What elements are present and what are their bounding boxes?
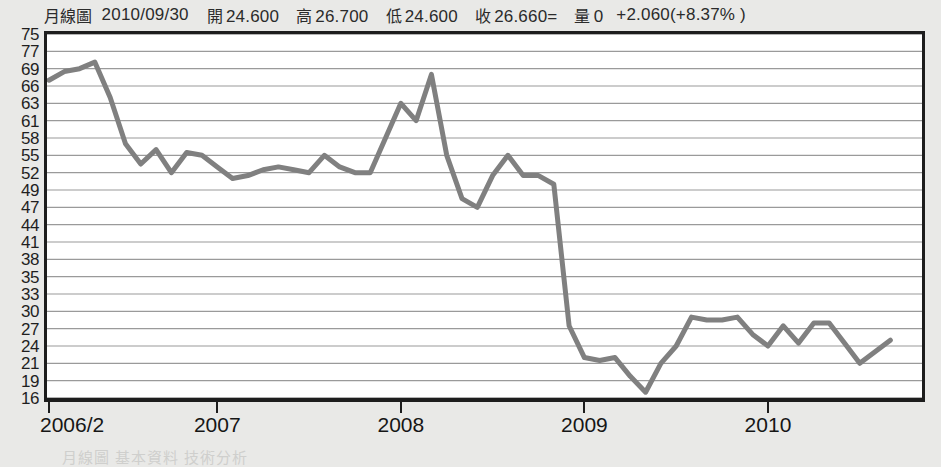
- footer-note: 月線圖 基本資料 技術分析: [62, 446, 248, 467]
- y-axis-tick-21: 21: [21, 355, 39, 372]
- x-axis-baseline: [44, 399, 925, 402]
- x-axis-label-2006/2: 2006/2: [40, 412, 104, 438]
- x-axis-label-2007: 2007: [194, 412, 241, 438]
- y-axis-tick-19: 19: [21, 372, 39, 389]
- y-axis-tick-47: 47: [21, 199, 39, 216]
- y-axis-tick-69: 69: [21, 60, 39, 77]
- quote-header: 月線圖 2010/09/30 開 24.600 高 26.700 低 24.60…: [44, 2, 934, 28]
- plot-area: [47, 34, 922, 398]
- y-axis-tick-58: 58: [21, 130, 39, 147]
- volume-value: 0: [594, 7, 604, 27]
- y-axis-labels: 7577696663615855524947444138353330272421…: [0, 31, 42, 401]
- high-label: 高: [296, 3, 312, 27]
- quote-change: +2.060(+8.37% ): [616, 5, 746, 25]
- x-axis-labels: 2006/22007200820092010: [0, 412, 941, 442]
- x-axis-label-2009: 2009: [561, 412, 608, 438]
- high-value: 26.700: [315, 7, 368, 27]
- volume-label: 量: [574, 3, 590, 27]
- quote-high: 高 26.700: [296, 3, 368, 27]
- open-value: 24.600: [226, 7, 279, 27]
- x-axis-label-2010: 2010: [745, 412, 792, 438]
- y-axis-tick-16: 16: [21, 390, 39, 407]
- close-label: 收: [475, 3, 491, 27]
- y-axis-tick-66: 66: [21, 78, 39, 95]
- y-axis-tick-75: 75: [21, 26, 39, 43]
- x-axis-label-2008: 2008: [377, 412, 424, 438]
- low-value: 24.600: [405, 7, 458, 27]
- quote-open: 開 24.600: [207, 3, 279, 27]
- y-axis-tick-33: 33: [21, 286, 39, 303]
- y-axis-tick-30: 30: [21, 303, 39, 320]
- y-axis-tick-27: 27: [21, 320, 39, 337]
- low-label: 低: [386, 3, 402, 27]
- y-axis-tick-38: 38: [21, 251, 39, 268]
- y-axis-tick-63: 63: [21, 95, 39, 112]
- quote-low: 低 24.600: [386, 3, 458, 27]
- y-axis-tick-49: 49: [21, 182, 39, 199]
- plot-frame: [44, 31, 925, 401]
- close-value: 26.660=: [494, 7, 557, 27]
- quote-volume: 量 0: [574, 3, 603, 27]
- quote-close: 收 26.660=: [475, 3, 558, 27]
- y-axis-tick-35: 35: [21, 268, 39, 285]
- y-axis-tick-77: 77: [21, 43, 39, 60]
- y-axis-tick-41: 41: [21, 234, 39, 251]
- price-line-svg: [47, 34, 922, 398]
- price-line: [49, 62, 890, 392]
- y-axis-tick-61: 61: [21, 112, 39, 129]
- y-axis-tick-52: 52: [21, 164, 39, 181]
- gridlines: [47, 34, 922, 398]
- y-axis-tick-55: 55: [21, 147, 39, 164]
- y-axis-tick-44: 44: [21, 216, 39, 233]
- y-axis-tick-24: 24: [21, 338, 39, 355]
- quote-date: 2010/09/30: [102, 5, 189, 25]
- chart-type-label: 月線圖: [44, 3, 93, 27]
- open-label: 開: [207, 3, 223, 27]
